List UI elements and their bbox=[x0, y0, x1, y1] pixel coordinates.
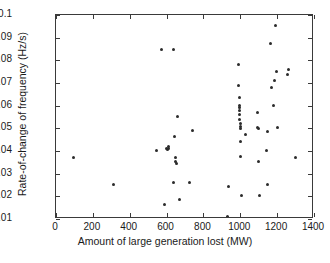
data-point bbox=[237, 63, 240, 66]
plot-area bbox=[55, 14, 313, 218]
x-tick-label: 1000 bbox=[219, 221, 259, 232]
y-tick-mark bbox=[56, 83, 60, 84]
data-point bbox=[240, 194, 243, 197]
y-axis-title: Rate-of-change of frequency (Hz/s) bbox=[16, 0, 28, 229]
x-tick-mark-top bbox=[130, 15, 131, 19]
data-point bbox=[276, 126, 279, 129]
x-tick-mark-top bbox=[93, 15, 94, 19]
x-tick-mark-top bbox=[167, 15, 168, 19]
x-tick-mark bbox=[240, 213, 241, 217]
data-point bbox=[272, 104, 275, 107]
x-tick-label: 200 bbox=[72, 221, 112, 232]
x-axis-title: Amount of large generation lost (MW) bbox=[0, 235, 330, 247]
chart-figure: 0200400600800100012001400 0.010.020.030.… bbox=[0, 0, 330, 263]
x-tick-mark-top bbox=[240, 15, 241, 19]
y-tick-mark-right bbox=[308, 151, 312, 152]
data-point bbox=[178, 198, 181, 201]
x-tick-mark bbox=[314, 213, 315, 217]
x-tick-mark bbox=[167, 213, 168, 217]
y-tick-mark-right bbox=[308, 174, 312, 175]
y-tick-mark-right bbox=[308, 128, 312, 129]
data-point bbox=[112, 183, 115, 186]
y-tick-label: 0.01 bbox=[0, 212, 12, 223]
y-tick-label: 0.04 bbox=[0, 144, 12, 155]
y-tick-mark-right bbox=[308, 196, 312, 197]
y-tick-mark-right bbox=[308, 219, 312, 220]
x-tick-label: 400 bbox=[109, 221, 149, 232]
y-tick-label: 0.07 bbox=[0, 76, 12, 87]
y-tick-mark-right bbox=[308, 106, 312, 107]
data-point bbox=[227, 185, 230, 188]
data-point bbox=[191, 129, 194, 132]
data-point bbox=[174, 156, 177, 159]
data-point bbox=[274, 24, 277, 27]
x-tick-mark-top bbox=[314, 15, 315, 19]
x-tick-label: 1400 bbox=[293, 221, 330, 232]
data-point bbox=[244, 133, 247, 136]
x-tick-mark bbox=[277, 213, 278, 217]
y-tick-label: 0.05 bbox=[0, 121, 12, 132]
data-point bbox=[172, 48, 175, 51]
data-point bbox=[237, 84, 240, 87]
data-point bbox=[258, 194, 261, 197]
data-point bbox=[163, 203, 166, 206]
data-point bbox=[175, 162, 178, 165]
y-tick-mark bbox=[56, 219, 60, 220]
data-point bbox=[72, 156, 75, 159]
data-point bbox=[273, 79, 276, 82]
x-tick-label: 800 bbox=[182, 221, 222, 232]
x-tick-label: 1200 bbox=[256, 221, 296, 232]
data-point bbox=[238, 96, 241, 99]
data-point bbox=[173, 135, 176, 138]
x-tick-mark bbox=[93, 213, 94, 217]
data-point bbox=[270, 86, 273, 89]
y-tick-mark bbox=[56, 151, 60, 152]
x-tick-mark bbox=[56, 213, 57, 217]
data-point bbox=[275, 70, 278, 73]
data-point bbox=[257, 127, 260, 130]
data-point bbox=[167, 147, 170, 150]
y-tick-mark-right bbox=[308, 15, 312, 16]
y-tick-mark bbox=[56, 38, 60, 39]
data-point bbox=[160, 48, 163, 51]
data-point bbox=[256, 111, 259, 114]
x-tick-mark-top bbox=[277, 15, 278, 19]
data-point bbox=[287, 68, 290, 71]
scatter-points-layer bbox=[56, 15, 312, 217]
data-point bbox=[239, 127, 242, 130]
data-point bbox=[239, 155, 242, 158]
data-point bbox=[176, 115, 179, 118]
data-point bbox=[188, 181, 191, 184]
y-tick-label: 0.08 bbox=[0, 53, 12, 64]
data-point bbox=[238, 113, 241, 116]
y-tick-mark bbox=[56, 15, 60, 16]
x-tick-mark bbox=[203, 213, 204, 217]
y-tick-mark-right bbox=[308, 83, 312, 84]
data-point bbox=[172, 181, 175, 184]
x-tick-label: 600 bbox=[146, 221, 186, 232]
y-tick-mark bbox=[56, 128, 60, 129]
data-point bbox=[155, 149, 158, 152]
y-tick-label: 0.1 bbox=[0, 8, 12, 19]
y-tick-label: 0.02 bbox=[0, 189, 12, 200]
data-point bbox=[266, 183, 269, 186]
x-tick-mark-top bbox=[203, 15, 204, 19]
data-point bbox=[257, 160, 260, 163]
y-tick-mark bbox=[56, 106, 60, 107]
y-tick-label: 0.09 bbox=[0, 31, 12, 42]
y-tick-mark-right bbox=[308, 38, 312, 39]
x-tick-label: 0 bbox=[35, 221, 75, 232]
data-point bbox=[265, 149, 268, 152]
y-tick-mark bbox=[56, 196, 60, 197]
y-tick-mark bbox=[56, 174, 60, 175]
data-point bbox=[238, 109, 241, 112]
y-tick-label: 0.06 bbox=[0, 99, 12, 110]
data-point bbox=[286, 73, 289, 76]
x-tick-mark bbox=[130, 213, 131, 217]
data-point bbox=[239, 140, 242, 143]
data-point bbox=[266, 130, 269, 133]
data-point bbox=[269, 42, 272, 45]
y-tick-label: 0.03 bbox=[0, 167, 12, 178]
data-point bbox=[226, 215, 229, 217]
data-point bbox=[238, 118, 241, 121]
